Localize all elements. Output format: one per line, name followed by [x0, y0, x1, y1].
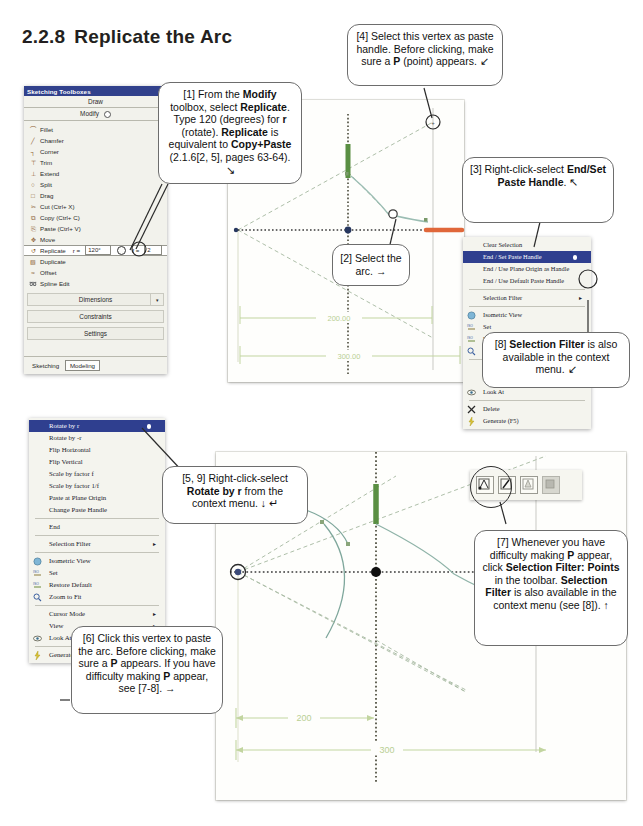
toolbox-item-duplicate[interactable]: ▧ Duplicate [28, 256, 167, 267]
duplicate-icon: ▧ [29, 256, 37, 267]
replicate-label: Replicate [40, 245, 66, 256]
corner-icon: ┐ [29, 146, 37, 157]
zoom-icon [467, 347, 476, 356]
menu-item-generate[interactable]: Generate (F5) [463, 415, 591, 427]
toolbox-modify-label: Modify [80, 110, 99, 117]
toolbox-item-trim[interactable]: ⊤ Trim [28, 157, 167, 168]
toolbox-item-replicate[interactable]: ↺ Replicate r = 120° f = 2 [24, 245, 167, 256]
toolbox-item-drag[interactable]: □ Drag [28, 190, 167, 201]
menu-item-flip-horizontal[interactable]: Flip Horizontal [29, 444, 165, 456]
iso-set-icon: ISO [467, 323, 476, 332]
toolbox-item-move[interactable]: ✥ Move [28, 234, 167, 245]
toolbox-item-extend[interactable]: ⊥ Extend [28, 168, 167, 179]
menu-item-selection-filter[interactable]: Selection Filter ▸ [29, 538, 165, 550]
menu-item-end-use-default-paste-handle[interactable]: End / Use Default Paste Handle [463, 275, 591, 287]
toolbox-item-copy[interactable]: ⧉ Copy (Ctrl+ C) [28, 212, 167, 223]
paste-vertex-point [235, 569, 241, 575]
toolbox-item-label: Trim [40, 157, 52, 168]
constraint-marker-3 [346, 542, 350, 546]
tab-modeling[interactable]: Modeling [65, 360, 100, 371]
zoom-icon [33, 593, 42, 602]
chevron-down-icon[interactable]: ▾ [150, 294, 163, 305]
menu-separator [35, 552, 159, 553]
modify-radio-icon[interactable] [104, 111, 111, 118]
menu-item-label: View [49, 622, 63, 629]
menu-item-label: Selection Filter [49, 540, 91, 547]
toolbox-group-settings[interactable]: Settings [27, 327, 164, 340]
menu-item-isometric-view[interactable]: Isometric View [463, 309, 591, 321]
menu-item-zoom-to-fit[interactable]: Zoom to Fit [29, 591, 165, 603]
toolbar-highlight-ring [470, 466, 512, 508]
menu-item-label: Flip Horizontal [49, 446, 91, 453]
replicate-handle-icon[interactable] [117, 246, 126, 255]
menu-item-label: End / Use Default Paste Handle [483, 277, 564, 284]
menu-item-scale-by-factor-f[interactable]: Scale by factor f [29, 468, 165, 480]
toolbox-item-offset[interactable]: ≈ Offset [28, 267, 167, 278]
menu-item-flip-vertical[interactable]: Flip Vertical [29, 456, 165, 468]
toolbox-item-spline-edit[interactable]: ➿ Spline Edit [28, 278, 167, 289]
menu-item-selection-filter[interactable]: Selection Filter ▸ [463, 292, 591, 304]
toolbox-group-dimensions[interactable]: Dimensions ▾ [27, 293, 164, 306]
replicate-f-input[interactable]: 2 [144, 245, 162, 255]
menu-item-cursor-mode[interactable]: Cursor Mode ▸ [29, 608, 165, 620]
menu-item-paste-at-plane-origin[interactable]: Paste at Plane Origin [29, 492, 165, 504]
bolt-icon [33, 651, 42, 660]
replicate-r-input[interactable]: 120° [85, 245, 111, 255]
paste-icon: ⎘ [29, 223, 37, 234]
toolbox-group-constraints[interactable]: Constraints [27, 310, 164, 323]
selection-filter-faces-button[interactable] [520, 476, 538, 494]
left-vertex-point [234, 228, 238, 232]
menu-item-change-paste-handle[interactable]: Change Paste Handle [29, 504, 165, 516]
toolbox-item-label: Split [40, 179, 52, 190]
constraint-marker-2 [345, 172, 349, 176]
menu-item-label: Look At [483, 388, 504, 395]
toolbox-item-corner[interactable]: ┐ Corner [28, 146, 167, 157]
toolbox-tabs: Sketching Modeling [24, 356, 167, 371]
toolbox-modify-bar[interactable]: Modify [24, 108, 167, 121]
menu-item-label: Cursor Mode [49, 610, 85, 617]
sketching-toolbox-window[interactable]: Sketching Toolboxes Draw Modify ⌒ Fillet… [24, 86, 167, 374]
group-label: Constraints [79, 313, 111, 320]
menu-item-delete[interactable]: Delete [463, 403, 591, 415]
menu-item-scale-by-factor-inv-f[interactable]: Scale by factor 1/f [29, 480, 165, 492]
menu-item-label: Scale by factor f [49, 470, 94, 477]
menu-item-label: End [49, 523, 60, 530]
menu-item-rotate-by-neg-r[interactable]: Rotate by -r [29, 432, 165, 444]
menu-item-rotate-by-r[interactable]: Rotate by r [29, 420, 165, 432]
chevron-right-icon: ▸ [579, 292, 582, 304]
menu-item-isometric-view[interactable]: Isometric View [29, 555, 165, 567]
selection-filter-bodies-button[interactable] [542, 476, 560, 494]
toolbox-item-list: ⌒ Fillet ╱ Chamfer ┐ Corner ⊤ Trim ⊥ Ext… [24, 121, 167, 289]
menu-separator [35, 605, 159, 606]
callout-3-text: [3] Right-click-select End/Set Paste Han… [470, 163, 606, 188]
menu-item-end-use-plane-origin[interactable]: End / Use Plane Origin as Handle [463, 263, 591, 275]
menu-item-clear-selection[interactable]: Clear Selection [463, 239, 591, 251]
menu-item-label: Isometric View [49, 557, 91, 564]
svg-text:ISO: ISO [33, 570, 39, 574]
menu-item-label: Paste at Plane Origin [49, 494, 106, 501]
toolbox-item-label: Corner [40, 146, 59, 157]
toolbox-item-cut[interactable]: ✂ Cut (Ctrl+ X) [28, 201, 167, 212]
tab-sketching[interactable]: Sketching [28, 361, 63, 370]
menu-item-label: Set [49, 569, 58, 576]
toolbox-draw-bar[interactable]: Draw [24, 96, 167, 108]
toolbox-item-label: Duplicate [40, 256, 66, 267]
toolbox-item-split[interactable]: ○ Split [28, 179, 167, 190]
close-icon [467, 405, 476, 414]
toolbox-item-paste[interactable]: ⎘ Paste (Ctrl+ V) [28, 223, 167, 234]
chamfer-icon: ╱ [29, 135, 37, 146]
trim-icon: ⊤ [29, 157, 37, 168]
toolbox-title-bar: Sketching Toolboxes [24, 86, 167, 96]
replicate-r-label: r = [73, 245, 80, 256]
toolbox-item-chamfer[interactable]: ╱ Chamfer [28, 135, 167, 146]
menu-item-label: Selection Filter [483, 294, 522, 301]
menu-item-end-set-paste-handle[interactable]: End / Set Paste Handle [463, 251, 591, 263]
offset-icon: ≈ [29, 267, 37, 278]
callout-2: [2] Select the arc. → [332, 244, 410, 286]
menu-item-end[interactable]: End [29, 521, 165, 533]
drag-icon: □ [29, 190, 37, 201]
toolbox-item-fillet[interactable]: ⌒ Fillet [28, 124, 167, 135]
sphere-icon [33, 557, 42, 566]
menu-item-set[interactable]: ISO Set [29, 567, 165, 579]
menu-item-restore-default[interactable]: ISO Restore Default [29, 579, 165, 591]
